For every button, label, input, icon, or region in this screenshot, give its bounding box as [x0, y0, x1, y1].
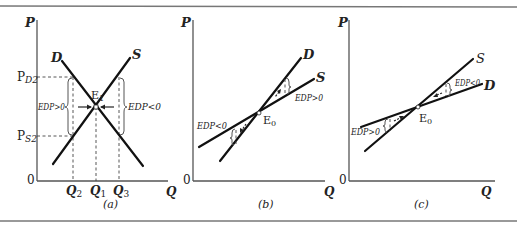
quantity-axis-label: Q: [166, 185, 177, 199]
origin-label: 0: [183, 173, 191, 187]
price-axis-label: P: [337, 15, 349, 30]
arrowhead-right-icon: [87, 105, 92, 110]
panel-caption: (b): [258, 198, 274, 211]
supply-label: S: [316, 70, 325, 85]
panel-b: P 0 Q D S E0 EDP>0 EDP<0 (b): [180, 15, 335, 211]
panel-caption: (c): [414, 198, 429, 211]
demand-label: D: [483, 78, 496, 93]
arrowhead-left-icon: [100, 105, 105, 110]
quantity-axis-label: Q: [324, 185, 335, 199]
price-axis-label: P: [180, 15, 192, 30]
equilibrium-label: E0: [419, 112, 432, 126]
right-brace-icon: [120, 78, 127, 135]
price-tick-ps2: PS2: [17, 129, 37, 144]
demand-curve: [62, 61, 143, 166]
edp-negative-label: EDP<0: [196, 120, 227, 131]
edp-positive-label: EDP>0: [350, 126, 380, 137]
equilibrium-point: [416, 105, 420, 109]
panel-a: P 0 Q D S E1 EDP>0 EDP<0 PD2 PS2 Q2 Q1 Q: [17, 15, 177, 211]
demand-label: D: [302, 47, 315, 62]
upper-arrow-icon: [275, 92, 279, 97]
price-axis-label: P: [24, 15, 36, 30]
upper-brace-icon: [286, 78, 291, 94]
supply-demand-figure: P 0 Q D S E1 EDP>0 EDP<0 PD2 PS2 Q2 Q1 Q: [0, 0, 517, 225]
edp-negative-label: EDP<0: [127, 101, 161, 112]
equilibrium-label: E1: [91, 89, 104, 103]
supply-label: S: [132, 47, 141, 62]
origin-label: 0: [339, 173, 347, 187]
lower-brace-icon: [383, 119, 388, 132]
quantity-tick-q2: Q2: [66, 184, 82, 199]
equilibrium-point: [257, 111, 261, 115]
equilibrium-label: E0: [263, 114, 276, 128]
left-brace-icon: [65, 78, 72, 135]
panel-c: P 0 Q S D E0 EDP<0 EDP>0 (c): [337, 15, 496, 211]
equilibrium-point: [94, 105, 98, 109]
edp-positive-label: EDP>0: [37, 102, 65, 112]
panel-caption: (a): [103, 198, 118, 211]
top-rule: [0, 6, 517, 7]
edp-negative-label: EDP<0: [454, 78, 480, 88]
upper-arrow-icon: [437, 93, 442, 95]
quantity-tick-q3: Q3: [113, 184, 129, 199]
price-tick-pd2: PD2: [17, 70, 38, 85]
origin-label: 0: [27, 173, 35, 187]
supply-curve: [199, 79, 314, 147]
demand-label: D: [50, 50, 63, 65]
quantity-axis-label: Q: [481, 185, 492, 199]
quantity-tick-q1: Q1: [90, 184, 106, 199]
supply-label: S: [476, 51, 485, 66]
edp-positive-label: EDP>0: [294, 92, 323, 103]
